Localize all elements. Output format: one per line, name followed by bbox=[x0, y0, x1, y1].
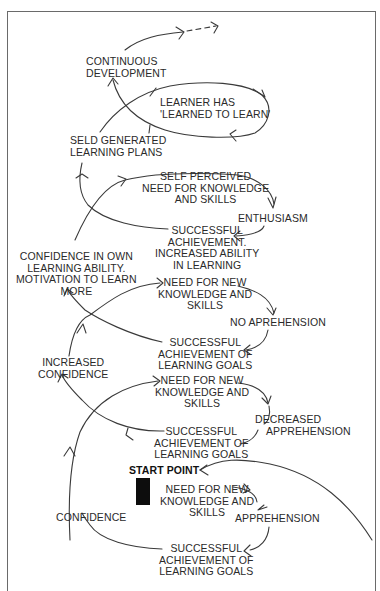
label-learned-to-learn: LEARNER HAS 'LEARNED TO LEARN' bbox=[160, 97, 270, 120]
arrowhead bbox=[76, 174, 88, 178]
label-self-generated-plans: SELD GENERATED LEARNING PLANS bbox=[70, 135, 166, 158]
label-need-3: NEED FOR NEW KNOWLEDGE AND SKILLS bbox=[158, 277, 252, 312]
label-confidence-own-ability: CONFIDENCE IN OWN LEARNING ABILITY. MOTI… bbox=[16, 251, 137, 297]
arrowhead bbox=[267, 308, 276, 315]
arrowhead bbox=[211, 22, 218, 33]
arrowhead bbox=[258, 505, 267, 510]
label-success-3: SUCCESSFUL ACHIEVEMENT OF LEARNING GOALS bbox=[158, 337, 253, 372]
label-no-apprehension: NO APREHENSION bbox=[230, 317, 326, 329]
label-decreased-apprehension: DECREASED APPREHENSION bbox=[255, 414, 351, 437]
label-enthusiasm: ENTHUSIASM bbox=[238, 213, 308, 225]
label-self-perceived-need: SELF PERCEIVED NEED FOR KNOWLEDGE AND SK… bbox=[142, 171, 269, 206]
start-point-label: START POINT bbox=[129, 465, 199, 477]
label-success-2: SUCCESSFUL ACHIEVEMENT OF LEARNING GOALS bbox=[154, 426, 249, 461]
arrowhead bbox=[230, 130, 236, 141]
label-confidence: CONFIDENCE bbox=[56, 512, 126, 524]
continuous-out-curve bbox=[125, 32, 183, 50]
label-increased-confidence: INCREASED CONFIDENCE bbox=[38, 357, 108, 380]
label-success-increased-ability: SUCCESSFUL ACHIEVEMENT. INCREASED ABILIT… bbox=[155, 225, 259, 271]
arrowhead bbox=[253, 89, 265, 97]
label-need-2: NEED FOR NEW KNOWLEDGE AND SKILLS bbox=[155, 375, 249, 410]
dashed-continuation bbox=[187, 26, 216, 31]
loop2-back-curve bbox=[62, 375, 164, 431]
arrowhead bbox=[64, 447, 75, 456]
arrowhead bbox=[149, 125, 150, 133]
label-success-1: SUCCESSFUL ACHIEVEMENT OF LEARNING GOALS bbox=[159, 543, 254, 578]
start-marker-block bbox=[136, 478, 150, 505]
label-apprehension: APPREHENSION bbox=[235, 513, 320, 525]
arrowhead bbox=[126, 428, 133, 440]
label-continuous-development: CONTINUOUS DEVELOPMENT bbox=[86, 56, 166, 79]
